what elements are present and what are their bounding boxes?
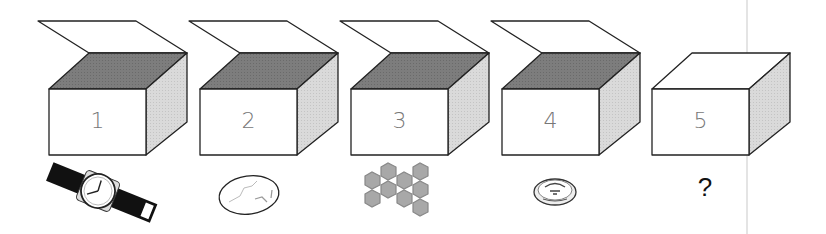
box-5 — [652, 53, 790, 155]
box-sequence-puzzle: 1 2 3 4 5 ? — [0, 0, 826, 234]
stone-icon — [217, 172, 282, 218]
box-5-number: 5 — [652, 108, 749, 133]
box-1 — [38, 21, 187, 155]
box-3-number: 3 — [351, 108, 448, 133]
wristwatch-icon — [43, 156, 160, 229]
honeycomb-icon — [365, 163, 428, 216]
box-4-number: 4 — [502, 108, 599, 133]
box-3 — [340, 21, 489, 155]
box-2 — [189, 21, 338, 155]
box-2-number: 2 — [200, 108, 297, 133]
box-4 — [491, 21, 640, 155]
box-lid — [38, 21, 187, 53]
question-mark: ? — [690, 172, 720, 203]
box-1-number: 1 — [49, 108, 146, 133]
coin-icon — [534, 179, 576, 205]
